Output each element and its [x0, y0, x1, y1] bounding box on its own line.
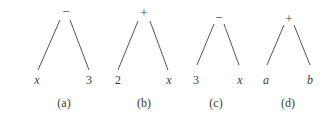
tree-edge — [197, 24, 214, 65]
operator-minus-node: − — [62, 6, 69, 18]
operand-left-node: 2 — [115, 74, 121, 86]
tree-edge — [267, 25, 284, 65]
operator-plus-node: + — [285, 13, 292, 25]
tree-edge — [70, 20, 89, 70]
operand-left-node: x — [34, 74, 39, 86]
tree-edge — [150, 21, 168, 70]
tree-edge — [118, 21, 138, 70]
operator-minus-node: − — [215, 12, 222, 24]
operator-plus-node: + — [140, 7, 147, 19]
tree-edge — [294, 25, 310, 65]
tree-caption: (b) — [137, 97, 151, 109]
operand-left-node: a — [263, 74, 269, 86]
tree-caption: (a) — [57, 97, 70, 109]
tree-caption: (c) — [209, 97, 222, 109]
operand-right-node: x — [237, 74, 242, 86]
operand-right-node: 3 — [86, 74, 92, 86]
tree-caption: (d) — [281, 97, 295, 109]
operand-left-node: 3 — [193, 74, 199, 86]
tree-edges — [0, 0, 326, 120]
operand-right-node: x — [166, 74, 171, 86]
tree-edge — [224, 24, 239, 65]
tree-edge — [38, 20, 60, 70]
operand-right-node: b — [307, 74, 313, 86]
